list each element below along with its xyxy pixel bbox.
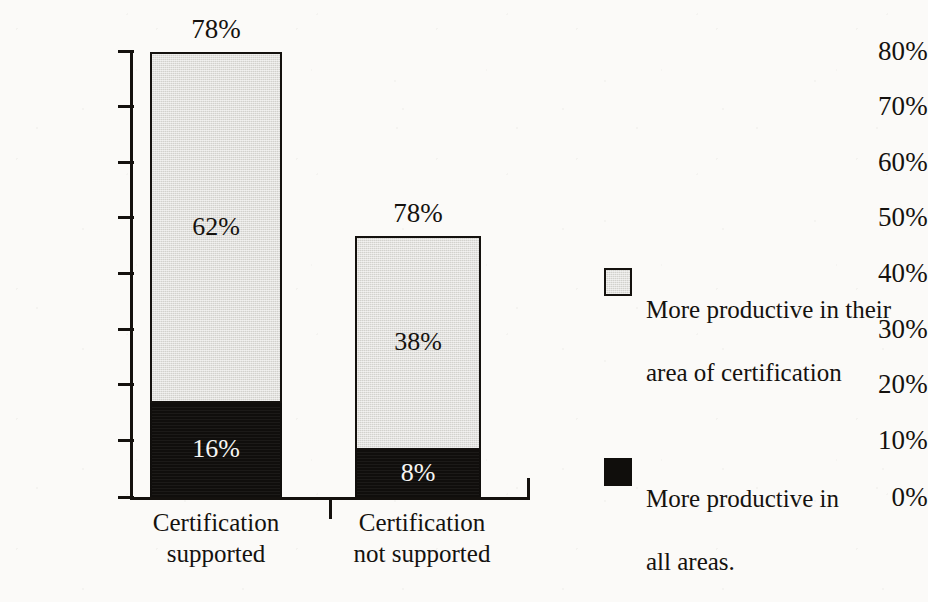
legend-label-2-line2: all areas. bbox=[646, 546, 839, 578]
x-category-label-2-line1: Certification bbox=[322, 508, 522, 539]
y-tick-30 bbox=[118, 328, 134, 331]
y-tick-80 bbox=[118, 50, 134, 53]
bar-stack-certification-not-supported[interactable]: 38% 8% bbox=[355, 236, 481, 497]
bar-segment-gray-label-2: 38% bbox=[394, 329, 442, 355]
legend-swatch-black-icon bbox=[604, 458, 632, 486]
y-tick-40 bbox=[118, 272, 134, 275]
y-tick-70 bbox=[118, 105, 134, 108]
bar-total-label-2: 78% bbox=[355, 200, 481, 227]
bar-total-label-1: 78% bbox=[150, 16, 282, 43]
y-tick-10 bbox=[118, 439, 134, 442]
legend-item-area-of-certification[interactable]: More productive in their area of certifi… bbox=[604, 262, 922, 420]
x-axis-cap-left bbox=[130, 478, 133, 500]
x-axis-cap-right bbox=[527, 478, 530, 500]
bar-segment-black-2[interactable]: 8% bbox=[355, 450, 481, 497]
x-category-label-1: Certification supported bbox=[120, 508, 312, 570]
x-category-label-1-line2: supported bbox=[120, 539, 312, 570]
legend-label-all-areas: More productive in all areas. bbox=[646, 452, 839, 602]
legend-swatch-gray-icon bbox=[604, 268, 632, 296]
bar-segment-gray-1[interactable]: 62% bbox=[150, 52, 282, 403]
y-axis-label-70: 70% bbox=[824, 93, 928, 120]
legend-item-all-areas[interactable]: More productive in all areas. bbox=[604, 452, 922, 602]
bar-segment-gray-2[interactable]: 38% bbox=[355, 236, 481, 450]
legend-label-2-line1: More productive in bbox=[646, 483, 839, 515]
legend-label-1-line2: area of certification bbox=[646, 357, 891, 389]
y-tick-50 bbox=[118, 216, 134, 219]
bar-segment-black-label-1: 16% bbox=[192, 436, 240, 462]
legend-label-area-of-certification: More productive in their area of certifi… bbox=[646, 262, 891, 420]
y-tick-20 bbox=[118, 383, 134, 386]
legend-label-1-line1: More productive in their bbox=[646, 294, 891, 326]
y-axis-label-80: 80% bbox=[824, 38, 928, 65]
y-axis-label-50: 50% bbox=[824, 204, 928, 231]
x-category-label-2-line2: not supported bbox=[322, 539, 522, 570]
bar-segment-gray-label-1: 62% bbox=[192, 214, 240, 240]
bar-stack-certification-supported[interactable]: 62% 16% bbox=[150, 52, 282, 497]
plot-area: 80% 70% 60% 50% 40% 30% 20% 10% 0% 78% 6… bbox=[0, 0, 928, 602]
y-tick-60 bbox=[118, 161, 134, 164]
chart-legend: More productive in their area of certifi… bbox=[604, 262, 922, 602]
x-category-label-2: Certification not supported bbox=[322, 508, 522, 570]
y-axis-label-60: 60% bbox=[824, 149, 928, 176]
bar-segment-black-label-2: 8% bbox=[401, 460, 436, 486]
bar-segment-black-1[interactable]: 16% bbox=[150, 403, 282, 497]
stacked-bar-chart: 80% 70% 60% 50% 40% 30% 20% 10% 0% 78% 6… bbox=[0, 0, 928, 602]
x-category-label-1-line1: Certification bbox=[120, 508, 312, 539]
